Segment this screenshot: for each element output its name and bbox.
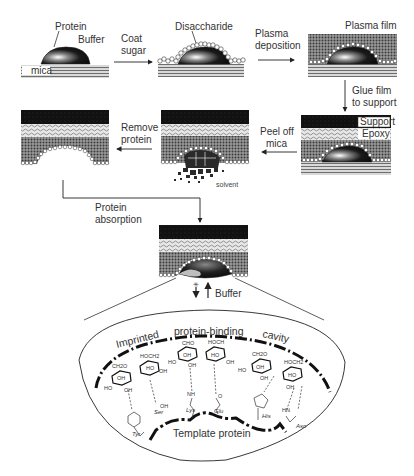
- plasma-film-label: Plasma film: [345, 20, 397, 31]
- to-support-label: to support: [352, 97, 397, 108]
- support-label: Support: [360, 116, 395, 127]
- protein-binding-label: protein-binding: [174, 325, 244, 337]
- svg-text:CHO: CHO: [182, 340, 195, 346]
- svg-text:HO: HO: [238, 367, 247, 373]
- buffer-label: Buffer: [78, 34, 105, 45]
- blocked-symbol: ✳: [193, 281, 199, 288]
- svg-text:HOCH2: HOCH2: [140, 353, 159, 359]
- disaccharide-label: Disaccharide: [175, 21, 233, 32]
- binding-cavity-detail: Imprinted protein-binding cavity Templat…: [79, 310, 345, 461]
- peel-off-label: Peel off: [260, 126, 294, 137]
- residue-his: His: [262, 413, 271, 419]
- svg-text:OH: OH: [188, 362, 196, 368]
- svg-text:HO: HO: [104, 385, 113, 391]
- residue-tyr: Tyr: [132, 431, 141, 437]
- step-arrow-remove-protein: Remove protein: [117, 122, 159, 149]
- svg-text:NH: NH: [187, 391, 195, 397]
- protein-droplet: [41, 47, 90, 64]
- protein-absorption-label-1: Protein: [95, 202, 127, 213]
- step-arrow-peel-mica: Peel off mica: [260, 126, 297, 152]
- mica-peel-label: mica: [266, 138, 288, 149]
- residue-asn: Asn: [295, 423, 307, 429]
- protein-pointer: [54, 31, 59, 47]
- svg-text:OH: OH: [183, 352, 191, 358]
- svg-text:OH: OH: [260, 375, 268, 381]
- svg-text:HO: HO: [211, 352, 220, 358]
- residue-ser: Ser: [154, 409, 164, 415]
- protein-imprinting-diagram: Protein Buffer mica Coat sugar Disacchar…: [0, 0, 414, 476]
- step-arrow-protein-absorption: Protein absorption: [63, 180, 200, 225]
- step2-disaccharide-coating: Disaccharide: [158, 21, 245, 77]
- protein-remove-label: protein: [121, 134, 152, 145]
- step-arrow-coat-sugar: Coat sugar: [114, 33, 152, 62]
- remove-label: Remove: [121, 122, 159, 133]
- svg-text:OH: OH: [117, 375, 125, 381]
- epoxy-label: Epoxy: [362, 128, 390, 139]
- residue-glu: Glu: [214, 408, 224, 414]
- svg-text:OH: OH: [286, 384, 294, 390]
- svg-text:CH2O: CH2O: [252, 351, 268, 357]
- solvent-label: solvent: [216, 181, 238, 188]
- residue-lys: Lys: [186, 407, 195, 413]
- svg-text:OH: OH: [256, 364, 264, 370]
- svg-text:OH: OH: [159, 368, 167, 374]
- glue-film-label: Glue film: [352, 85, 391, 96]
- step-arrow-glue-film: Glue film to support: [345, 80, 397, 111]
- svg-text:HO: HO: [288, 372, 297, 378]
- svg-text:OH: OH: [226, 359, 234, 365]
- plasma-label: Plasma: [255, 28, 289, 39]
- step5-solvent: solvent: [161, 110, 249, 188]
- sugar-label: sugar: [121, 45, 147, 56]
- svg-text:HN: HN: [282, 407, 290, 413]
- svg-text:HO: HO: [168, 359, 177, 365]
- coat-label: Coat: [121, 33, 142, 44]
- svg-text:HOCH: HOCH: [208, 339, 224, 345]
- deposition-label: deposition: [255, 40, 301, 51]
- svg-text:HO: HO: [146, 365, 155, 371]
- mica-label: mica: [31, 65, 53, 76]
- protein-absorption-label-2: absorption: [95, 214, 142, 225]
- svg-text:O: O: [218, 393, 223, 399]
- step7-rebound-protein: ✳ Buffer: [159, 225, 248, 299]
- step4-support-epoxy: Support Epoxy: [301, 115, 395, 175]
- step-arrow-plasma-deposition: Plasma deposition: [255, 28, 301, 60]
- step1-protein-on-mica: Protein Buffer mica: [21, 21, 109, 78]
- svg-text:HOCH2: HOCH2: [284, 359, 303, 365]
- protein-label: Protein: [55, 21, 87, 32]
- buffer-label-2: Buffer: [215, 288, 242, 299]
- svg-text:CH2O: CH2O: [112, 363, 128, 369]
- step6-empty-cavity: [21, 110, 109, 165]
- template-protein-label: Template protein: [173, 427, 251, 439]
- step3-plasma-film: Plasma film: [308, 20, 397, 77]
